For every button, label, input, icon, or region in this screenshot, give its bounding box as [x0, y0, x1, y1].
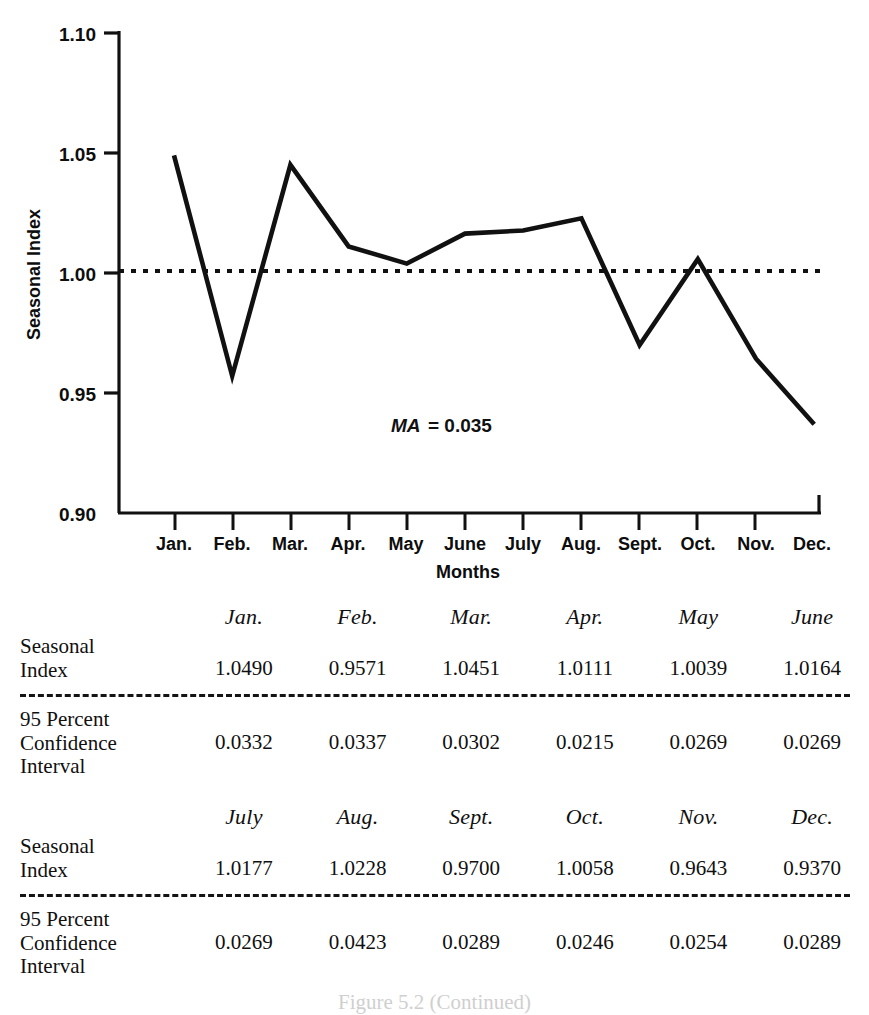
- cell-ci-aug: 0.0423: [301, 906, 415, 980]
- table-divider-1: [20, 694, 850, 697]
- column-header-dec: Dec.: [755, 804, 869, 834]
- table-row: Seasonal Index 1.0177 1.0228 0.9700 1.00…: [0, 834, 869, 883]
- y-tick-label-0: 1.10: [59, 24, 96, 45]
- x-tick-label-jan: Jan.: [156, 534, 192, 554]
- seasonal-index-line: [174, 155, 814, 424]
- cell-ci-june: 0.0269: [755, 706, 869, 780]
- cell-seasonal-jan: 1.0490: [187, 634, 301, 683]
- table-row: Seasonal Index 1.0490 0.9571 1.0451 1.01…: [0, 634, 869, 683]
- table-header-row: Jan. Feb. Mar. Apr. May June: [0, 604, 869, 634]
- table-row: 95 Percent Confidence Interval 0.0269 0.…: [0, 906, 869, 980]
- annotation-value: = 0.035: [428, 415, 492, 436]
- y-tick-label-3: 0.95: [59, 384, 96, 405]
- x-tick-label-june: June: [444, 534, 486, 554]
- y-tick-label-1: 1.05: [59, 144, 96, 165]
- row-label-confidence-interval: 95 Percent Confidence Interval: [0, 706, 187, 780]
- column-header-sept: Sept.: [414, 804, 528, 834]
- cell-ci-oct: 0.0246: [528, 906, 642, 980]
- seasonal-index-chart: 1.10 1.05 1.00 0.95 0.90 Seasonal Index …: [0, 0, 869, 595]
- x-tick-label-apr: Apr.: [330, 534, 365, 554]
- chart-canvas: 1.10 1.05 1.00 0.95 0.90 Seasonal Index …: [0, 0, 869, 595]
- ci-label-line1: 95 Percent: [20, 907, 109, 931]
- seasonal-table-second-half: July Aug. Sept. Oct. Nov. Dec. Seasonal …: [0, 804, 869, 883]
- cell-seasonal-feb: 0.9571: [301, 634, 415, 683]
- x-tick-label-nov: Nov.: [737, 534, 775, 554]
- table-corner-cell: [0, 604, 187, 634]
- row-label-line1: Seasonal: [20, 834, 95, 858]
- cell-seasonal-aug: 1.0228: [301, 834, 415, 883]
- column-header-may: May: [642, 604, 756, 634]
- ci-table-first-half: 95 Percent Confidence Interval 0.0332 0.…: [0, 706, 869, 780]
- x-tick-label-sept: Sept.: [618, 534, 662, 554]
- x-axis-title: Months: [436, 562, 500, 582]
- ci-label-line1: 95 Percent: [20, 707, 109, 731]
- table-ci-jan-june: 95 Percent Confidence Interval 0.0332 0.…: [0, 706, 869, 780]
- cell-seasonal-nov: 0.9643: [642, 834, 756, 883]
- x-tick-label-mar: Mar.: [272, 534, 308, 554]
- row-label-line1: Seasonal: [20, 634, 95, 658]
- column-header-aug: Aug.: [301, 804, 415, 834]
- table-corner-cell: [0, 804, 187, 834]
- cell-seasonal-sept: 0.9700: [414, 834, 528, 883]
- x-axis-ticks: [175, 513, 755, 530]
- row-label-line2: Index: [20, 858, 68, 882]
- cell-seasonal-apr: 1.0111: [528, 634, 642, 683]
- ci-label-line2: Confidence: [20, 931, 117, 955]
- ci-label-line2: Confidence: [20, 731, 117, 755]
- y-tick-label-4: 0.90: [59, 504, 96, 525]
- cell-ci-may: 0.0269: [642, 706, 756, 780]
- x-tick-label-feb: Feb.: [213, 534, 250, 554]
- column-header-apr: Apr.: [528, 604, 642, 634]
- table-header-row: July Aug. Sept. Oct. Nov. Dec.: [0, 804, 869, 834]
- cell-seasonal-june: 1.0164: [755, 634, 869, 683]
- ci-label-line3: Interval: [20, 954, 85, 978]
- x-tick-label-may: May: [388, 534, 423, 554]
- table-july-dec: July Aug. Sept. Oct. Nov. Dec. Seasonal …: [0, 804, 869, 883]
- cell-ci-apr: 0.0215: [528, 706, 642, 780]
- x-tick-label-oct: Oct.: [680, 534, 715, 554]
- cell-ci-jan: 0.0332: [187, 706, 301, 780]
- seasonal-table-first-half: Jan. Feb. Mar. Apr. May June Seasonal In…: [0, 604, 869, 683]
- row-label-seasonal-index: Seasonal Index: [0, 634, 187, 683]
- column-header-oct: Oct.: [528, 804, 642, 834]
- cell-seasonal-mar: 1.0451: [414, 634, 528, 683]
- cell-seasonal-july: 1.0177: [187, 834, 301, 883]
- x-tick-label-dec: Dec.: [793, 534, 831, 554]
- cell-ci-sept: 0.0289: [414, 906, 528, 980]
- column-header-june: June: [755, 604, 869, 634]
- annotation-symbol: MA: [391, 415, 421, 436]
- table-ci-july-dec: 95 Percent Confidence Interval 0.0269 0.…: [0, 906, 869, 980]
- cell-ci-nov: 0.0254: [642, 906, 756, 980]
- cell-seasonal-oct: 1.0058: [528, 834, 642, 883]
- ci-table-second-half: 95 Percent Confidence Interval 0.0269 0.…: [0, 906, 869, 980]
- table-row: 95 Percent Confidence Interval 0.0332 0.…: [0, 706, 869, 780]
- ci-label-line3: Interval: [20, 754, 85, 778]
- cell-ci-july: 0.0269: [187, 906, 301, 980]
- column-header-mar: Mar.: [414, 604, 528, 634]
- row-label-line2: Index: [20, 658, 68, 682]
- table-jan-june: Jan. Feb. Mar. Apr. May June Seasonal In…: [0, 604, 869, 683]
- y-axis-title: Seasonal Index: [24, 209, 44, 340]
- column-header-feb: Feb.: [301, 604, 415, 634]
- column-header-jan: Jan.: [187, 604, 301, 634]
- row-label-seasonal-index: Seasonal Index: [0, 834, 187, 883]
- y-tick-label-2: 1.00: [59, 264, 96, 285]
- cell-ci-mar: 0.0302: [414, 706, 528, 780]
- cell-seasonal-dec: 0.9370: [755, 834, 869, 883]
- figure-caption: Figure 5.2 (Continued): [0, 990, 869, 1015]
- cell-seasonal-may: 1.0039: [642, 634, 756, 683]
- column-header-july: July: [187, 804, 301, 834]
- cell-ci-dec: 0.0289: [755, 906, 869, 980]
- x-tick-label-july: July: [505, 534, 541, 554]
- table-divider-2: [20, 894, 850, 897]
- cell-ci-feb: 0.0337: [301, 706, 415, 780]
- x-tick-label-aug: Aug.: [561, 534, 601, 554]
- column-header-nov: Nov.: [642, 804, 756, 834]
- row-label-confidence-interval: 95 Percent Confidence Interval: [0, 906, 187, 980]
